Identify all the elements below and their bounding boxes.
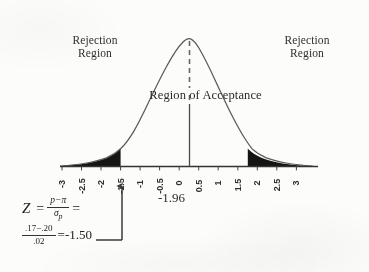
tick-label-neg1-5: -1.5 — [116, 173, 126, 199]
z-statistic-formula: Z = p−π σp = .17−.20 .02 =-1.50 — [22, 196, 92, 246]
z-symbol: Z — [22, 200, 33, 217]
rejection-region-label-left: Rejection Region — [58, 34, 132, 60]
tick-label-1-5: 1.5 — [233, 172, 243, 198]
tick-label-neg2: -2 — [96, 171, 106, 197]
tick-label-1: 1 — [213, 170, 223, 196]
right-rejection-shade — [248, 149, 307, 166]
tick-label-2: 2 — [252, 170, 262, 196]
result-value: -1.50 — [65, 227, 92, 242]
equals-sign-3: = — [58, 227, 65, 242]
equals-sign-2: = — [69, 201, 83, 217]
fraction-numerator-numeric: .17−.20 — [22, 224, 56, 234]
figure-canvas: Rejection Region Rejection Region Region… — [0, 0, 369, 272]
sigma-subscript: p — [59, 212, 63, 221]
fraction-denominator-symbolic: σp — [51, 208, 66, 221]
equals-sign-1: = — [33, 201, 47, 217]
formula-row-numeric: .17−.20 .02 =-1.50 — [22, 224, 92, 246]
formula-result: =-1.50 — [56, 227, 92, 243]
tick-label-neg3: -3 — [57, 171, 67, 197]
fraction-numerator-symbolic: p−π — [47, 196, 69, 207]
tick-label-2-5: 2.5 — [272, 172, 282, 198]
left-rejection-shade — [62, 149, 121, 166]
tick-label-neg1: -1 — [135, 171, 145, 197]
tick-label-3: 3 — [291, 170, 301, 196]
fraction-denominator-numeric: .02 — [30, 236, 47, 246]
acceptance-region-label: Region of Acceptance — [118, 88, 293, 103]
tick-label-0-5: 0.5 — [194, 173, 204, 199]
critical-value-label: -1.96 — [158, 190, 185, 206]
formula-fraction-numeric: .17−.20 .02 — [22, 224, 56, 246]
rejection-region-label-right: Rejection Region — [270, 34, 344, 60]
formula-fraction-symbolic: p−π σp — [47, 196, 69, 221]
formula-row-definition: Z = p−π σp = — [22, 196, 92, 221]
